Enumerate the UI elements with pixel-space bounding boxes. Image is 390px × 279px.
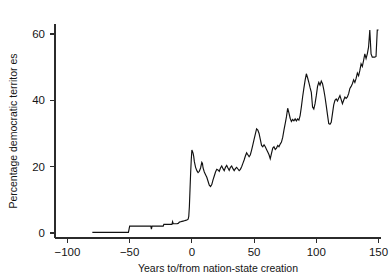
y-axis-group: 0204060 [32, 24, 55, 239]
x-tick-label-5: 150 [369, 246, 388, 258]
y-axis-ticks [50, 34, 55, 233]
x-axis-title: Years to/from nation-state creation [138, 262, 298, 274]
line-chart: 0204060 −100−50050100150 Years to/from n… [0, 0, 390, 279]
y-tick-label-2: 40 [32, 94, 45, 106]
x-tick-label-0: −100 [54, 246, 80, 258]
x-axis-ticks [67, 238, 378, 243]
x-tick-label-2: 0 [189, 246, 195, 258]
data-series-line [92, 30, 378, 232]
y-axis-tick-labels: 0204060 [32, 28, 45, 239]
y-tick-label-3: 60 [32, 28, 45, 40]
x-axis-group: −100−50050100150 [54, 238, 388, 258]
x-tick-label-1: −50 [120, 246, 140, 258]
x-axis-tick-labels: −100−50050100150 [54, 246, 388, 258]
x-tick-label-4: 100 [307, 246, 326, 258]
y-tick-label-1: 20 [32, 161, 45, 173]
chart-figure: 0204060 −100−50050100150 Years to/from n… [0, 0, 390, 279]
y-axis-title: Percentage democratic territor es [7, 53, 19, 208]
y-tick-label-0: 0 [39, 227, 45, 239]
x-tick-label-3: 50 [248, 246, 261, 258]
